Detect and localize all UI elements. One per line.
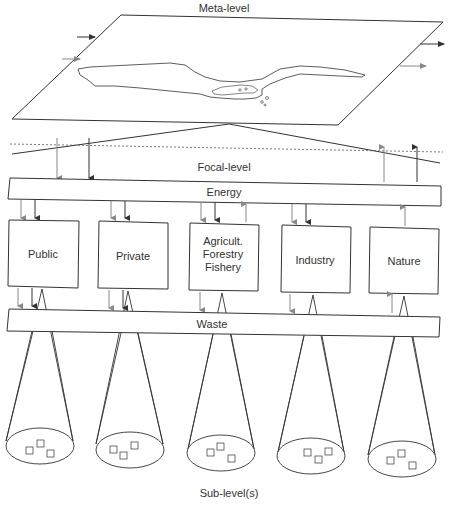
island-outline [78,63,365,99]
sub-level-label: Sub-level(s) [200,487,259,499]
waste-label: Waste [197,318,228,330]
sub-level-nature [368,441,436,477]
sector-public: Public [8,220,79,288]
sector-private: Private [98,221,168,289]
focal-cone-left [12,124,229,154]
sector-nature: Nature [369,227,439,294]
meta-level-label: Meta-level [199,2,250,14]
sector-industry: Industry [281,225,351,293]
svg-text:Nature: Nature [387,255,420,267]
sub-level-agriculture [187,435,255,471]
meta-level-plane [12,15,443,125]
svg-text:Public: Public [28,248,58,260]
svg-text:Private: Private [116,250,150,262]
sub-level-private [96,432,164,468]
sub-level-public [6,428,74,464]
svg-text:Fishery: Fishery [205,261,242,273]
island-detail [212,85,258,95]
sub-level-systems [6,428,436,477]
focal-meta-sub-diagram: Meta-level Focal-level Energy [0,0,449,511]
svg-text:Agricult.: Agricult. [203,235,243,247]
energy-label: Energy [207,186,242,198]
focal-cone-right [229,124,440,163]
svg-text:Industry: Industry [295,254,335,266]
sector-agriculture-forestry-fishery: Agricult. Forestry Fishery [189,223,259,291]
sub-level-industry [277,438,345,474]
islets [239,88,269,106]
svg-text:Forestry: Forestry [203,248,244,260]
focal-dotted-boundary [10,144,443,152]
focal-level-label: Focal-level [197,161,250,173]
